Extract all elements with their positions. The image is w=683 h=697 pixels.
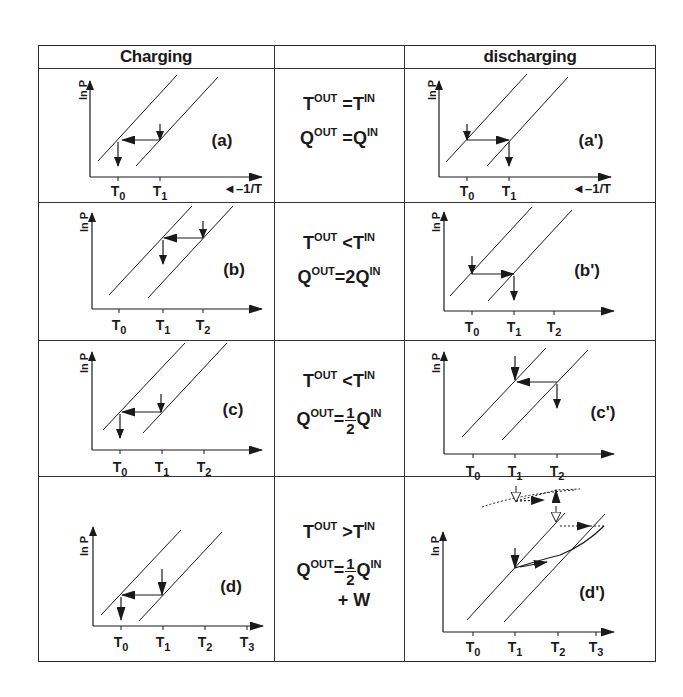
tick-b-prime-t0: T0 (465, 319, 480, 338)
svg-text:ln P: ln P (78, 212, 90, 232)
tick-d-t2: T2 (198, 634, 213, 653)
panel-label-d-prime: (d') (579, 583, 605, 602)
plot-a (90, 75, 262, 181)
y-axis-label-b-prime: ln P (430, 212, 442, 232)
equation-temperature-b: TOUT <TIN (274, 233, 404, 267)
panel-label-b: (b) (223, 260, 245, 279)
svg-text:ln P: ln P (429, 536, 441, 556)
y-axis-label-c-prime: ln P (430, 353, 442, 373)
equations-d: TOUT >TIN QOUT=12QIN + W (274, 522, 404, 624)
tick-d-prime-t3: T3 (589, 639, 604, 658)
tick-d-t3: T3 (240, 634, 255, 653)
equations-c: TOUT <TIN QOUT=12QIN (274, 371, 404, 439)
panel-label-a: (a) (212, 131, 233, 150)
equation-temperature-d: TOUT >TIN (274, 522, 404, 556)
plot-c (92, 343, 262, 454)
tick-d-t1: T1 (156, 634, 171, 653)
svg-text:ln P: ln P (78, 536, 90, 556)
plot-c-prime (444, 348, 614, 458)
y-axis-label-d: ln P (78, 536, 90, 556)
tick-b-t1: T1 (156, 317, 171, 336)
svg-text:ln P: ln P (430, 353, 442, 373)
fraction-one-half: 12 (345, 405, 355, 436)
equation-temperature-c: TOUT <TIN (274, 371, 404, 405)
tick-d-t0: T0 (114, 634, 129, 653)
panel-label-a-prime: (a') (579, 131, 604, 150)
y-axis-label-c: ln P (78, 353, 90, 373)
tick-d-prime-t2: T2 (551, 639, 566, 658)
svg-text:ln P: ln P (430, 212, 442, 232)
tick-a-t0: T0 (111, 183, 126, 202)
equation-heat-d: QOUT=12QIN (274, 556, 404, 590)
y-axis-label-b: ln P (78, 212, 90, 232)
x-axis-label-a-prime: ◄–1/T (572, 181, 611, 196)
panel-label-c: (c) (223, 400, 244, 419)
equation-heat-c: QOUT=12QIN (274, 405, 404, 439)
tick-c-t1: T1 (155, 459, 170, 478)
tick-c-prime-t1: T1 (508, 463, 523, 482)
panel-label-b-prime: (b') (574, 261, 600, 280)
tick-b-t2: T2 (196, 317, 211, 336)
tick-c-t0: T0 (113, 459, 128, 478)
panel-label-c-prime: (c') (591, 403, 616, 422)
fraction-one-half: 12 (345, 556, 355, 587)
tick-a-prime-t1: T1 (502, 183, 517, 202)
tick-b-t0: T0 (112, 317, 127, 336)
panel-label-d: (d) (220, 577, 242, 596)
equation-temperature-a: TOUT =TIN (274, 94, 404, 128)
plot-d-prime (443, 486, 614, 636)
svg-text:ln P: ln P (78, 353, 90, 373)
x-axis-label-a: ◄–1/T (223, 181, 262, 196)
equation-work-term-d: + W (274, 590, 404, 624)
y-axis-label-d-prime: ln P (429, 536, 441, 556)
tick-a-t1: T1 (153, 183, 168, 202)
equations-a: TOUT =TIN QOUT =QIN (274, 94, 404, 162)
tick-b-prime-t1: T1 (507, 319, 522, 338)
tick-b-prime-t2: T2 (547, 319, 562, 338)
tick-c-prime-t0: T0 (466, 463, 481, 482)
plot-a-prime (439, 74, 611, 181)
svg-text:ln P: ln P (77, 80, 89, 100)
tick-d-prime-t1: T1 (508, 639, 523, 658)
equation-heat-b: QOUT=2QIN (274, 267, 404, 301)
svg-text:ln P: ln P (426, 80, 438, 100)
tick-d-prime-t0: T0 (466, 639, 481, 658)
equation-heat-a: QOUT =QIN (274, 128, 404, 162)
equations-b: TOUT <TIN QOUT=2QIN (274, 233, 404, 301)
tick-c-prime-t2: T2 (550, 463, 565, 482)
y-axis-label-a-prime: ln P (426, 80, 438, 100)
tick-c-t2: T2 (197, 459, 212, 478)
y-axis-label-a: ln P (77, 80, 89, 100)
tick-a-prime-t0: T0 (460, 183, 475, 202)
